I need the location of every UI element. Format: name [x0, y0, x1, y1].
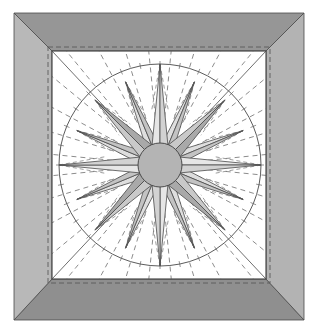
border-bottom [14, 279, 304, 320]
quilt-diagram [0, 0, 316, 328]
border-right [266, 13, 304, 320]
border-top [14, 13, 304, 51]
mariners-compass-block [0, 0, 316, 328]
border-left [14, 13, 52, 320]
compass-hub [138, 143, 182, 187]
hub-circle [138, 143, 182, 187]
